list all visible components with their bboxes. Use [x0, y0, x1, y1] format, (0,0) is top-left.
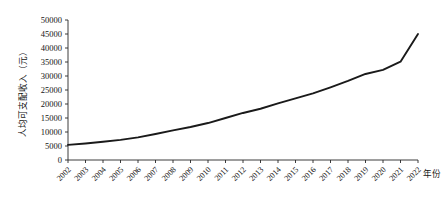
line-chart-svg: 0500010000150002000025000300003500040000…	[0, 0, 445, 200]
chart-figure: 0500010000150002000025000300003500040000…	[0, 0, 445, 200]
y-axis-title: 人均可支配收入（元）	[17, 47, 28, 137]
y-tick-label: 45000	[41, 29, 62, 39]
y-tick-label: 35000	[41, 57, 62, 67]
y-tick-label: 15000	[41, 113, 62, 123]
x-axis-ticks	[68, 160, 418, 163]
x-axis-title: 年份	[423, 168, 441, 179]
y-tick-label: 20000	[41, 99, 62, 109]
y-tick-label: 10000	[41, 127, 62, 137]
y-tick-label: 50000	[41, 15, 62, 25]
y-tick-label: 25000	[41, 85, 62, 95]
y-tick-label: 40000	[41, 43, 62, 53]
y-tick-label: 0	[58, 155, 62, 165]
y-tick-label: 30000	[41, 71, 62, 81]
y-tick-label: 5000	[45, 141, 62, 151]
